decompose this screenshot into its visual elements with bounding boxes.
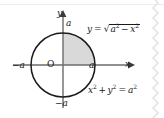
equation-circle: x2+y2=a2 <box>88 86 137 95</box>
eq-bottom-term-a-exponent: 2 <box>133 83 137 90</box>
eq-top-relation: = <box>94 24 102 34</box>
eq-bottom-term-x-exponent: 2 <box>93 83 97 90</box>
equation-upper-semicircle: y=√a2−x2 <box>87 24 140 34</box>
eq-bottom-term-y-exponent: 2 <box>113 83 117 90</box>
y-axis-label: y <box>57 9 62 18</box>
radical-symbol-icon: √a2−x2 <box>104 24 140 34</box>
x-axis-label: x <box>125 60 130 69</box>
y-tick-label-negative-a: −a <box>55 99 68 108</box>
eq-top-radicand-second-exponent: 2 <box>135 22 139 29</box>
circle-diagram-graphic <box>0 0 164 118</box>
x-tick-label-a: a <box>89 61 94 70</box>
origin-label: O <box>47 60 54 69</box>
eq-top-lhs: y <box>87 24 92 34</box>
eq-bottom-plus: + <box>98 85 106 95</box>
figure-container: y a −a −a a x O y=√a2−x2 x2+y2=a2 <box>0 0 164 118</box>
eq-top-radicand-first-exponent: 2 <box>116 22 120 29</box>
y-tick-label-a: a <box>66 19 71 28</box>
eq-bottom-relation: = <box>118 85 126 95</box>
torn-edge-zigzag-icon <box>153 0 158 118</box>
x-tick-label-negative-a: −a <box>12 61 25 70</box>
eq-top-radicand-operator: − <box>121 24 129 34</box>
